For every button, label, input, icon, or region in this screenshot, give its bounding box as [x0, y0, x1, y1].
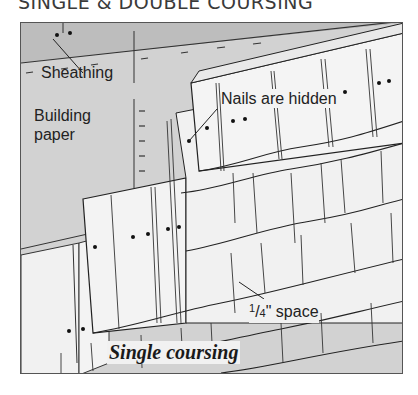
diagram-frame: Sheathing Building paper Nails are hidde… — [20, 22, 403, 374]
space-suffix: " space — [266, 303, 319, 320]
label-nails-hidden: Nails are hidden — [221, 89, 337, 108]
label-sheathing: Sheathing — [41, 63, 113, 82]
label-building-paper-line1: Building — [34, 106, 91, 125]
label-building-paper-line2: paper — [34, 125, 75, 144]
diagram-title: SINGLE & DOUBLE COURSING — [18, 0, 313, 13]
caption-single-coursing: Single coursing — [107, 341, 240, 364]
label-quarter-inch-space: 1/4" space — [249, 299, 319, 323]
